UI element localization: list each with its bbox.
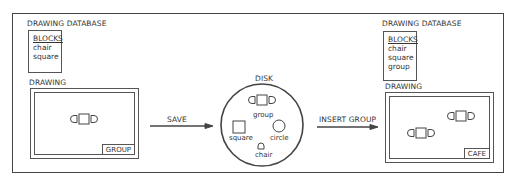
disk-chair-icon — [258, 143, 264, 149]
disk-circle-icon — [273, 120, 285, 132]
disk-group-icon — [249, 95, 276, 105]
right-table-group-2-icon — [408, 128, 435, 138]
insert-group-arrow-icon — [317, 125, 378, 130]
diagram-graphics — [0, 0, 518, 182]
left-table-group-icon — [71, 114, 98, 124]
save-arrow-icon — [150, 124, 213, 129]
disk-square-icon — [233, 121, 245, 133]
right-table-group-1-icon — [448, 111, 475, 121]
